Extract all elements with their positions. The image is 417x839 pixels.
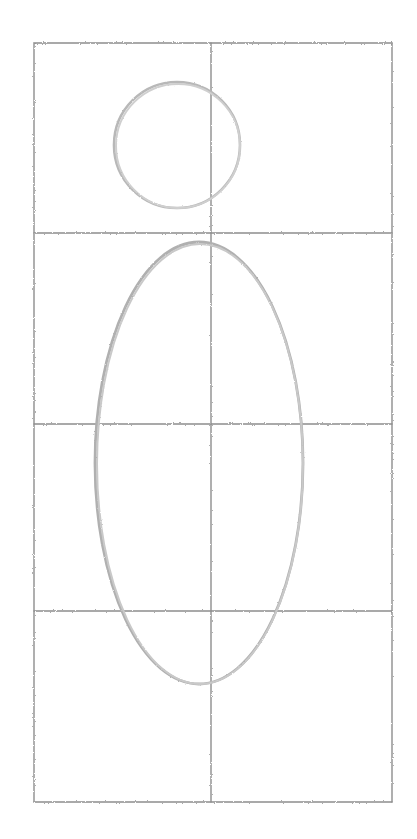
sketch-canvas (0, 0, 417, 839)
sketch-svg (0, 0, 417, 839)
paper-background (0, 0, 417, 839)
